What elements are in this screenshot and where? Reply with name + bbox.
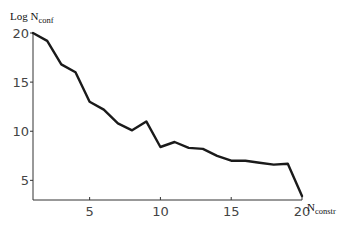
axes bbox=[33, 33, 302, 200]
y-ticks: 5101520 bbox=[12, 26, 33, 188]
y-axis-title-main: Log N bbox=[10, 10, 38, 22]
series-group bbox=[33, 33, 302, 196]
x-axis-title-main: N bbox=[307, 201, 315, 213]
y-axis-title-sub: conf bbox=[38, 15, 53, 25]
y-tick-label: 5 bbox=[21, 173, 29, 188]
y-tick-label: 15 bbox=[12, 75, 29, 90]
x-tick-label: 5 bbox=[85, 204, 93, 219]
x-axis-title-sub: constr bbox=[315, 206, 336, 216]
line-chart: 5101520 5101520 Log Nconf Nconstr bbox=[0, 0, 355, 226]
y-tick-label: 10 bbox=[12, 124, 29, 139]
y-tick-label: 20 bbox=[12, 26, 29, 41]
y-axis-title: Log Nconf bbox=[10, 10, 54, 25]
x-tick-label: 15 bbox=[223, 204, 240, 219]
series-line bbox=[33, 33, 302, 196]
x-axis-title: Nconstr bbox=[307, 201, 336, 216]
x-tick-label: 10 bbox=[152, 204, 169, 219]
